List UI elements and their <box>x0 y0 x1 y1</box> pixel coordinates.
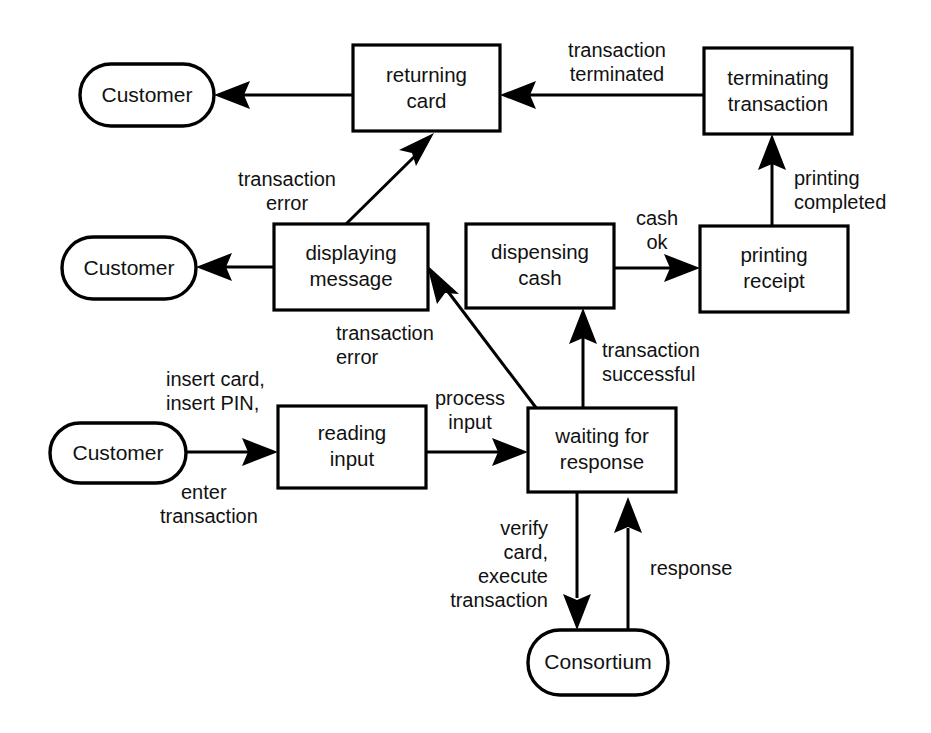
transition-displaying-message-to-customer <box>196 253 274 281</box>
edge-label-transaction-successful-line1: transaction <box>602 339 700 361</box>
state-node-reading-input[interactable]: reading input <box>278 406 426 488</box>
edge-label-enter-transaction: transaction <box>160 505 258 527</box>
state-label-returning-card-line1: returning <box>386 63 467 86</box>
edge-label-cash-ok-line1: cash <box>636 207 678 229</box>
arrow-head-icon <box>563 594 591 630</box>
actor-node-consortium[interactable]: Consortium <box>528 630 668 695</box>
state-node-printing-receipt[interactable]: printing receipt <box>700 226 848 312</box>
edge-label-transaction-error-mid-line2: error <box>336 346 379 368</box>
state-diagram-canvas: transaction terminated printing complete… <box>0 0 931 733</box>
edge-label-process-input-line1: process <box>435 387 505 409</box>
state-label-reading-input-line1: reading <box>318 421 386 444</box>
transition-returning-card-to-customer <box>214 81 353 109</box>
state-label-dispensing-cash-line2: cash <box>518 266 561 289</box>
state-label-displaying-message-line1: displaying <box>305 241 396 264</box>
edge-label-transaction-successful-line2: successful <box>602 363 695 385</box>
edge-label-verify-line2: card, <box>504 541 548 563</box>
arrow-head-icon <box>399 133 434 166</box>
state-node-terminating-transaction[interactable]: terminating transaction <box>704 48 852 134</box>
edge-label-verify-line4: transaction <box>450 589 548 611</box>
state-label-dispensing-cash-line1: dispensing <box>491 240 589 263</box>
transition-terminating-to-returning-card: transaction terminated <box>500 39 704 109</box>
state-label-terminating-transaction-line1: terminating <box>727 66 828 89</box>
state-node-waiting-for-response[interactable]: waiting for response <box>528 408 676 492</box>
edge-label-cash-ok-line2: ok <box>646 231 668 253</box>
edge-label-printing-completed-line1: printing <box>794 167 860 189</box>
edge-label-transaction-error-top-line1: transaction <box>238 168 336 190</box>
edge-label-enter: enter <box>181 481 227 503</box>
transition-consortium-to-waiting: response <box>614 497 732 630</box>
transition-waiting-to-consortium: verify card, execute transaction <box>450 492 591 630</box>
state-label-terminating-transaction-line2: transaction <box>728 92 828 115</box>
edge-label-process-input-line2: input <box>448 411 492 433</box>
state-node-returning-card[interactable]: returning card <box>353 45 500 131</box>
actor-label-consortium: Consortium <box>544 650 651 673</box>
state-node-dispensing-cash[interactable]: dispensing cash <box>466 224 614 308</box>
actor-node-customer-bottom[interactable]: Customer <box>50 423 186 483</box>
edge-label-printing-completed-line2: completed <box>794 191 886 213</box>
actor-label-customer-middle: Customer <box>83 256 174 279</box>
transition-displaying-message-to-returning-card: transaction error <box>238 133 434 224</box>
edge-label-transaction-terminated-line1: transaction <box>568 39 666 61</box>
edge-label-transaction-error-top-line2: error <box>266 192 309 214</box>
state-label-printing-receipt-line1: printing <box>740 243 807 266</box>
state-node-displaying-message[interactable]: displaying message <box>274 224 428 310</box>
state-label-printing-receipt-line2: receipt <box>743 269 805 292</box>
actor-label-customer-top: Customer <box>101 83 192 106</box>
state-label-reading-input-line2: input <box>330 447 375 470</box>
edge-label-transaction-error-mid-line1: transaction <box>336 322 434 344</box>
state-label-displaying-message-line2: message <box>309 267 392 290</box>
edge-label-response: response <box>650 557 732 579</box>
actor-node-customer-middle[interactable]: Customer <box>62 237 196 299</box>
transition-waiting-to-dispensing-cash: transaction successful <box>569 308 700 408</box>
transition-dispensing-cash-to-printing-receipt: cash ok <box>614 207 700 282</box>
edge-label-insert-card: insert card, <box>166 368 265 390</box>
edge-label-insert-pin: insert PIN, <box>166 392 259 414</box>
transition-printing-receipt-to-terminating: printing completed <box>758 134 886 226</box>
edge-label-verify-line3: execute <box>478 565 548 587</box>
edge-label-transaction-terminated-line2: terminated <box>570 63 665 85</box>
actor-label-customer-bottom: Customer <box>72 441 163 464</box>
atm-state-diagram: transaction terminated printing complete… <box>0 0 931 733</box>
transition-reading-input-to-waiting: process input <box>426 387 528 466</box>
actor-node-customer-top[interactable]: Customer <box>80 64 214 126</box>
edge-label-verify-line1: verify <box>500 517 548 539</box>
state-label-returning-card-line2: card <box>407 89 447 112</box>
arrow-head-icon <box>614 497 642 533</box>
state-label-waiting-for-response-line1: waiting for <box>554 424 649 447</box>
state-label-waiting-for-response-line2: response <box>560 450 644 473</box>
